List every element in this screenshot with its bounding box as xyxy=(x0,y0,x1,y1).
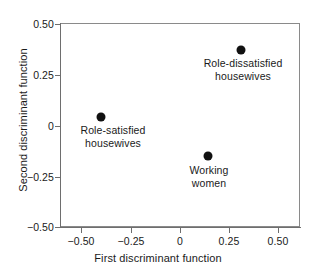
x-tick-label-0: −0.50 xyxy=(67,235,94,247)
y-tick-mark-0 xyxy=(55,24,60,25)
y-tick-label-2: 0 xyxy=(48,120,54,132)
x-tick-mark-1 xyxy=(131,228,132,233)
y-tick-label-1: 0.25 xyxy=(33,69,54,81)
y-tick-mark-1 xyxy=(55,75,60,76)
data-label-working-women: Working women xyxy=(161,164,257,189)
x-tick-mark-4 xyxy=(278,228,279,233)
data-point-role-dissatisfied-housewives xyxy=(237,46,246,55)
x-axis-title: First discriminant function xyxy=(0,252,316,264)
data-label-role-dissatisfied-housewives: Role-dissatisfied housewives xyxy=(175,57,311,82)
x-tick-label-1: −0.25 xyxy=(117,235,144,247)
y-tick-mark-4 xyxy=(55,227,60,228)
y-tick-mark-3 xyxy=(55,177,60,178)
x-tick-mark-0 xyxy=(81,228,82,233)
x-tick-label-2: 0 xyxy=(177,235,183,247)
y-tick-label-3: −0.25 xyxy=(27,171,54,183)
y-tick-label-0: 0.50 xyxy=(33,18,54,30)
y-axis-title: Second discriminant function xyxy=(17,15,29,225)
data-point-working-women xyxy=(204,152,213,161)
x-tick-mark-2 xyxy=(180,228,181,233)
data-label-role-satisfied-housewives: Role-satisfied housewives xyxy=(57,124,169,149)
data-point-role-satisfied-housewives xyxy=(97,113,106,122)
x-tick-mark-3 xyxy=(229,228,230,233)
x-tick-label-3: 0.25 xyxy=(219,235,240,247)
y-tick-label-4: −0.50 xyxy=(27,221,54,233)
discriminant-function-scatter-chart: −0.50 −0.25 0 0.25 0.50 0.50 0.25 0 −0.2… xyxy=(0,0,316,277)
x-tick-label-4: 0.50 xyxy=(268,235,289,247)
